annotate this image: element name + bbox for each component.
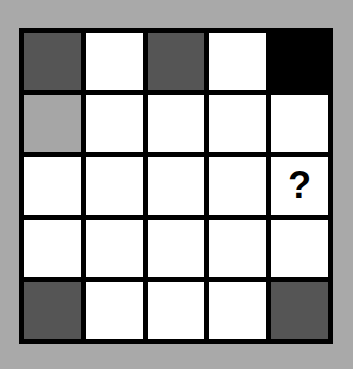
grid-cell-white bbox=[209, 157, 266, 214]
grid-cell-dark bbox=[148, 33, 205, 90]
grid-cell-dark bbox=[271, 282, 328, 339]
grid-cell-white bbox=[86, 157, 143, 214]
grid-cell-white bbox=[86, 220, 143, 277]
grid-cell-white bbox=[209, 220, 266, 277]
grid-cell-white bbox=[24, 220, 81, 277]
grid-cell-white bbox=[148, 220, 205, 277]
puzzle-grid: ? bbox=[19, 28, 333, 344]
grid-cell-white bbox=[271, 220, 328, 277]
grid-cell-white bbox=[209, 33, 266, 90]
grid-cell-white bbox=[86, 95, 143, 152]
grid-cell-white bbox=[148, 282, 205, 339]
grid-cell-white bbox=[86, 33, 143, 90]
grid-cell-white bbox=[271, 95, 328, 152]
grid-cell-white bbox=[209, 282, 266, 339]
grid-cell-dark bbox=[24, 33, 81, 90]
question-cell: ? bbox=[271, 157, 328, 214]
grid-cell-white bbox=[24, 157, 81, 214]
grid-cell-white bbox=[148, 157, 205, 214]
grid-cell-white bbox=[86, 282, 143, 339]
grid-cell-white bbox=[209, 95, 266, 152]
grid-cell-white bbox=[148, 95, 205, 152]
grid-cell-light bbox=[24, 95, 81, 152]
grid-cell-black bbox=[271, 33, 328, 90]
grid-cell-dark bbox=[24, 282, 81, 339]
